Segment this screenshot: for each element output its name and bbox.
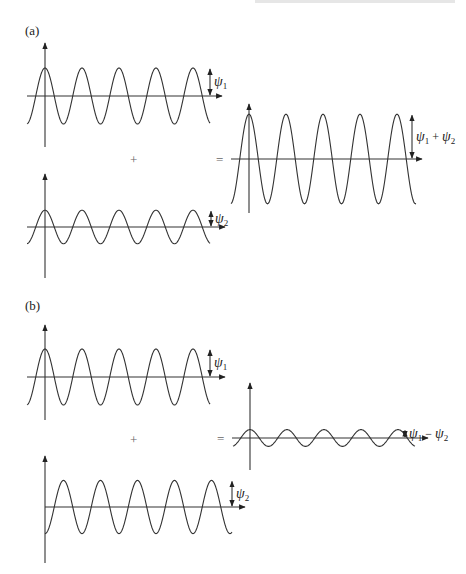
label-sum: ψ1 + ψ2 xyxy=(416,129,455,146)
equals-operator-b: = xyxy=(217,431,224,446)
panel-label-b: (b) xyxy=(25,298,40,313)
label-psi2: ψ2 xyxy=(215,211,228,228)
plot-b-psi2: ψ2 xyxy=(45,456,249,563)
plus-operator-b: + xyxy=(130,432,137,447)
plot-b-psi1: ψ1 xyxy=(27,325,227,420)
plot-a-psi1: ψ1 xyxy=(27,43,227,147)
plot-a-psi2: ψ2 xyxy=(27,174,228,278)
plus-operator-a: + xyxy=(130,152,137,167)
equals-operator-a: = xyxy=(216,152,223,167)
plot-b-difference: ψ1 − ψ2 xyxy=(232,383,448,470)
label-psi1: ψ1 xyxy=(214,355,227,372)
panel-label-a: (a) xyxy=(25,23,39,38)
plot-a-sum: ψ1 + ψ2 xyxy=(231,104,455,213)
interference-diagram: (a) (b) + = + = ψ1ψ2ψ1 + ψ2ψ1ψ2ψ1 − ψ2 xyxy=(0,0,466,574)
label-psi1: ψ1 xyxy=(214,74,227,91)
label-psi2: ψ2 xyxy=(236,486,249,503)
label-difference: ψ1 − ψ2 xyxy=(409,426,448,443)
